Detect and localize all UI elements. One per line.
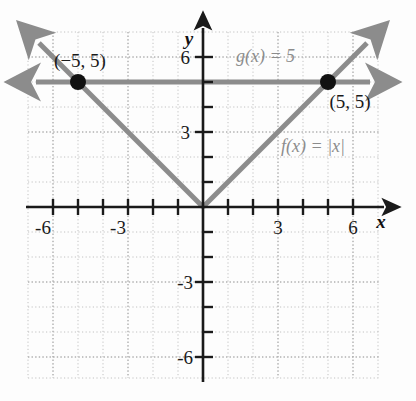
- coordinate-plane-svg: -6 -3 3 6 6 3 -3 -6 y x (−5, 5) (5, 5) g…: [0, 0, 416, 401]
- function-label-g: g(x) = 5: [236, 46, 295, 67]
- x-tick-label-neg6: -6: [35, 217, 51, 238]
- y-tick-label-6: 6: [181, 47, 191, 68]
- y-axis-label: y: [183, 28, 194, 49]
- x-tick-label-6: 6: [348, 217, 358, 238]
- x-tick-label-neg3: -3: [110, 217, 126, 238]
- y-tick-label-3: 3: [181, 122, 191, 143]
- x-tick-label-3: 3: [273, 217, 283, 238]
- y-tick-label-neg6: -6: [177, 347, 193, 368]
- function-label-f: f(x) = |x|: [281, 136, 345, 157]
- point-label-5-5: (5, 5): [329, 91, 370, 113]
- point-marker-5-5: [320, 74, 336, 90]
- point-label-neg5-5: (−5, 5): [54, 50, 106, 72]
- x-axis-label: x: [375, 211, 386, 232]
- absolute-value-graph-figure: -6 -3 3 6 6 3 -3 -6 y x (−5, 5) (5, 5) g…: [0, 0, 416, 401]
- y-tick-label-neg3: -3: [177, 272, 193, 293]
- point-marker-neg5-5: [70, 74, 86, 90]
